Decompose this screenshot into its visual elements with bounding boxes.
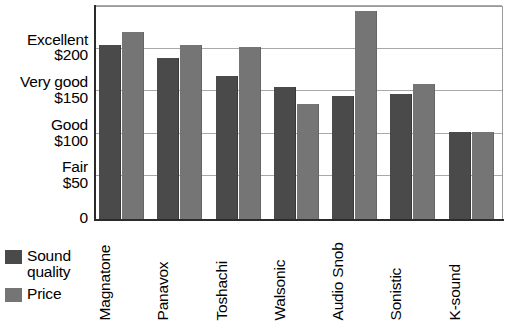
x-axis-line (94, 219, 504, 221)
y-tick-price-label: 0 (80, 210, 88, 226)
y-tick-rating-label: Good (51, 117, 88, 133)
bar-group (95, 7, 153, 219)
y-tick-price-label: $150 (20, 90, 88, 106)
bar (216, 76, 238, 219)
bar (332, 96, 354, 219)
y-tick-100: Good$100 (51, 117, 88, 149)
legend-label: Sound quality (27, 248, 93, 281)
y-tick-rating-label: Very good (20, 74, 88, 90)
legend-label: Price (27, 286, 61, 302)
legend-swatch-icon (5, 250, 22, 264)
bar-group (270, 7, 328, 219)
y-axis-tick-labels: 0Fair$50Good$100Very good$150Excellent$2… (0, 0, 92, 225)
x-label-text: K-sound (446, 264, 462, 320)
legend-swatch-icon (5, 288, 22, 302)
bar (239, 47, 261, 219)
y-tick-150: Very good$150 (20, 74, 88, 106)
bar (355, 11, 377, 219)
y-tick-rating-label: Fair (62, 159, 88, 175)
y-tick-price-label: $100 (51, 133, 88, 149)
gridline-250 (95, 5, 502, 6)
y-tick-price-label: $200 (27, 47, 88, 63)
bar (390, 94, 412, 219)
chart-legend: Sound qualityPrice (5, 248, 93, 307)
bar (180, 45, 202, 219)
bar (274, 87, 296, 219)
y-axis-line (94, 5, 96, 221)
bar-chart-figure: 0Fair$50Good$100Very good$150Excellent$2… (0, 0, 509, 322)
y-tick-50: Fair$50 (62, 159, 88, 191)
y-tick-200: Excellent$200 (27, 32, 88, 64)
x-label-text: Panavox (155, 261, 171, 320)
y-tick-price-label: $50 (62, 175, 88, 191)
y-tick-0: 0 (80, 210, 88, 226)
bar (413, 84, 435, 219)
bar (157, 58, 179, 219)
x-label-text: Sonistic (388, 267, 404, 320)
bar (99, 45, 121, 219)
bar (472, 132, 494, 219)
bar-group (445, 7, 503, 219)
x-label-text: Audio Snob (330, 242, 346, 320)
bar (297, 104, 319, 219)
bar (449, 132, 471, 219)
bar-group (153, 7, 211, 219)
x-label-text: Walsonic (271, 259, 287, 320)
bar (122, 32, 144, 219)
x-label-text: Toshachi (213, 260, 229, 320)
x-label-text: Magnatone (97, 244, 113, 320)
x-axis-category-labels: MagnatonePanavoxToshachiWalsonicAudio Sn… (95, 224, 503, 322)
bar-series-container (95, 7, 502, 219)
plot-area (95, 6, 503, 219)
legend-entry[interactable]: Price (5, 286, 93, 302)
bar-group (386, 7, 444, 219)
legend-entry[interactable]: Sound quality (5, 248, 93, 281)
y-tick-rating-label: Excellent (27, 32, 88, 48)
bar-group (212, 7, 270, 219)
bar-group (328, 7, 386, 219)
